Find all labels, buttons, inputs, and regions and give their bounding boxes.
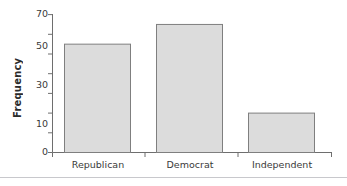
x-tick-label-independent: Independent: [247, 159, 317, 170]
bar-independent[interactable]: [249, 113, 315, 152]
x-tick-label-democrat: Democrat: [156, 159, 224, 170]
x-tick-label-republican: Republican: [64, 159, 132, 170]
x-axis-ticks: [53, 153, 332, 158]
footer-divider: [0, 177, 347, 178]
bar-republican[interactable]: [65, 44, 131, 152]
y-axis-ticks: [48, 15, 53, 153]
bar-chart-figure: Frequency 70 50 30 10 0: [0, 0, 347, 186]
bar-democrat[interactable]: [157, 24, 223, 152]
